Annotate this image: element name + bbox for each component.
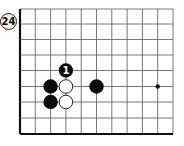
white-stone	[59, 95, 73, 109]
black-stone	[89, 79, 103, 93]
white-stone	[59, 80, 73, 94]
black-stone	[43, 95, 57, 109]
go-board: 1	[0, 0, 184, 146]
move-number-label: 1	[62, 65, 69, 76]
hoshi-point	[156, 84, 160, 88]
black-stone	[43, 79, 57, 93]
